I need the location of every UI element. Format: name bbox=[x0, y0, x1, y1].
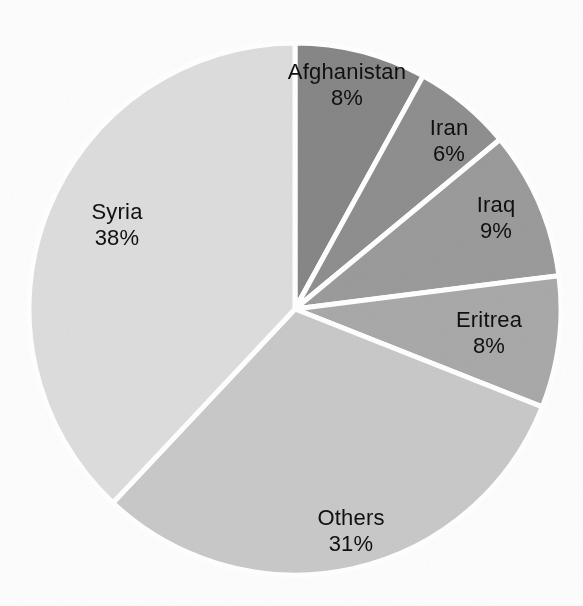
pie-chart-canvas bbox=[0, 0, 583, 606]
paper-grain-texture bbox=[0, 0, 583, 606]
pie-chart-figure: Afghanistan8%Iran6%Iraq9%Eritrea8%Others… bbox=[0, 0, 583, 606]
